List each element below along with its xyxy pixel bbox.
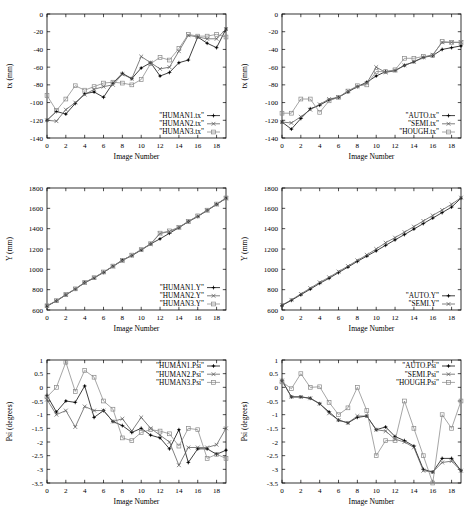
y-tick-label: -40 <box>269 46 279 54</box>
x-tick-label: 14 <box>175 314 183 322</box>
y-tick-label: -2.5 <box>32 452 44 460</box>
x-tick-label: 18 <box>213 487 221 495</box>
legend-key-marker <box>447 294 451 298</box>
y-tick-label: -2.5 <box>267 452 279 460</box>
x-tick-label: 8 <box>121 314 125 322</box>
data-marker-dot <box>178 62 180 64</box>
y-axis-title-group: tx (mm) <box>5 63 14 88</box>
chart-svg: 0246810121416180-20-40-60-80-100-120-140… <box>0 0 235 174</box>
legend-label: "HUMAN3.tx" <box>159 127 204 136</box>
x-tick-label: 0 <box>280 314 284 322</box>
data-marker-dot <box>441 48 443 50</box>
y-tick-label: -3 <box>37 466 43 474</box>
y-tick-label: -20 <box>269 28 279 36</box>
y-axis-title: Y (mm) <box>240 237 249 261</box>
plot-grid: 0246810121416180-20-40-60-80-100-120-140… <box>0 0 470 519</box>
x-axis-title: Image Number <box>349 497 395 506</box>
x-tick-label: 18 <box>448 314 456 322</box>
series-line <box>47 29 226 121</box>
x-tick-label: 18 <box>448 487 456 495</box>
data-marker-dot <box>441 457 443 459</box>
y-tick-label: 800 <box>32 286 43 294</box>
chart-panel-top-left: 0246810121416180-20-40-60-80-100-120-140… <box>0 0 235 174</box>
x-tick-label: 4 <box>318 314 322 322</box>
y-axis-title: Psi (degrees) <box>5 401 14 441</box>
legend-label: "SEMI.Y" <box>409 299 440 308</box>
y-tick-label: -3 <box>272 466 278 474</box>
chart-svg: 02468101214161810.50-0.5-1-1.5-2-2.5-3-3… <box>0 346 235 519</box>
y-axis-title-group: Psi (degrees) <box>5 401 14 441</box>
y-tick-label: 800 <box>267 286 278 294</box>
data-marker <box>374 65 378 69</box>
data-marker-dot <box>385 426 387 428</box>
x-tick-label: 2 <box>64 487 68 495</box>
x-axis-title: Image Number <box>114 324 160 333</box>
y-tick-label: 600 <box>32 307 43 315</box>
y-tick-label: 1600 <box>29 205 44 213</box>
y-tick-label: 0.5 <box>269 370 278 378</box>
series-group <box>45 32 228 112</box>
data-marker-dot <box>74 401 76 403</box>
y-tick-label: -100 <box>265 99 278 107</box>
y-axis-title: Y (mm) <box>5 237 14 261</box>
series-group <box>45 398 228 467</box>
figure-page: 0246810121416180-20-40-60-80-100-120-140… <box>0 0 470 519</box>
x-tick-label: 14 <box>410 314 418 322</box>
data-marker-dot <box>213 365 215 367</box>
x-tick-label: 6 <box>102 487 106 495</box>
x-tick-label: 8 <box>121 142 125 150</box>
series-line <box>282 381 461 473</box>
x-tick-label: 4 <box>318 142 322 150</box>
y-axis-title: tx (mm) <box>240 63 249 88</box>
x-tick-label: 16 <box>194 487 202 495</box>
chart-panel-top-right: 0246810121416180-20-40-60-80-100-120-140… <box>235 0 470 174</box>
data-marker-dot <box>290 128 292 130</box>
x-tick-label: 12 <box>157 314 165 322</box>
y-tick-label: 1000 <box>264 266 279 274</box>
data-marker-dot <box>385 244 387 246</box>
legend-label: "HUMAN3.Y" <box>160 299 204 308</box>
y-tick-label: 1800 <box>264 185 279 193</box>
x-tick-label: 6 <box>102 314 106 322</box>
x-tick-label: 8 <box>356 487 360 495</box>
x-tick-label: 4 <box>83 314 87 322</box>
chart-panel-middle-right: 0246810121416186008001000120014001600180… <box>235 174 470 346</box>
y-tick-label: -80 <box>34 81 44 89</box>
y-tick-label: 0 <box>39 11 43 19</box>
y-tick-label: 1400 <box>264 225 279 233</box>
y-tick-label: 1000 <box>29 266 44 274</box>
legend-key-marker <box>447 364 451 368</box>
x-tick-label: 8 <box>121 487 125 495</box>
data-marker-dot <box>150 434 152 436</box>
data-marker-dot <box>216 47 218 49</box>
data-marker <box>64 108 68 112</box>
x-tick-label: 0 <box>45 487 49 495</box>
series-group <box>280 379 463 474</box>
y-tick-label: -40 <box>34 46 44 54</box>
y-tick-label: 1800 <box>29 185 44 193</box>
data-marker-dot <box>84 385 86 387</box>
y-tick-label: -20 <box>34 28 44 36</box>
data-marker-dot <box>375 75 377 77</box>
y-tick-label: -1 <box>37 411 43 419</box>
data-marker-dot <box>422 223 424 225</box>
data-marker-dot <box>213 115 215 117</box>
data-marker <box>168 440 172 444</box>
data-marker <box>83 405 87 409</box>
y-tick-label: -3.5 <box>267 480 279 488</box>
legend-label: "HUMAN3.Psi" <box>156 378 204 387</box>
x-tick-label: 12 <box>392 487 400 495</box>
x-tick-label: 2 <box>299 487 303 495</box>
data-marker-dot <box>178 429 180 431</box>
y-tick-label: -3.5 <box>32 480 44 488</box>
y-tick-label: -0.5 <box>32 398 44 406</box>
y-tick-label: -1.5 <box>32 425 44 433</box>
y-tick-label: 1600 <box>264 205 279 213</box>
x-axis-title: Image Number <box>114 152 160 161</box>
data-marker-dot <box>441 212 443 214</box>
x-tick-label: 10 <box>138 314 146 322</box>
data-marker-dot <box>225 449 227 451</box>
data-marker-dot <box>448 295 450 297</box>
y-tick-label: -1.5 <box>267 425 279 433</box>
data-marker-dot <box>140 427 142 429</box>
